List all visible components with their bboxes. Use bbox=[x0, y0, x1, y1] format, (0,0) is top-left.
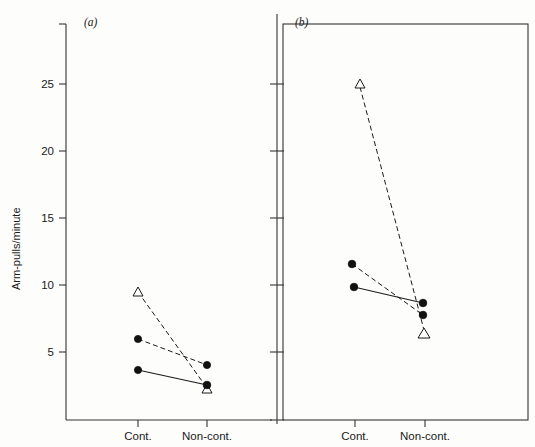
panel-a-marker-circle-noncont-2 bbox=[203, 381, 211, 389]
panel-b-xlabel-noncont: Non-cont. bbox=[400, 430, 450, 442]
panel-a-line-triangle bbox=[138, 292, 207, 388]
panel-b-line-circle-2 bbox=[354, 287, 423, 303]
panel-a-marker-circle-noncont-1 bbox=[203, 361, 210, 368]
panel-a-ytick-label-5: 5 bbox=[48, 346, 54, 358]
panel-a-tag: (a) bbox=[84, 16, 98, 29]
panel-a-marker-triangle-cont bbox=[133, 287, 143, 296]
y-axis-title: Arm-pulls/minute bbox=[10, 207, 22, 290]
panel-a-line-circle-2 bbox=[138, 370, 207, 385]
panel-b: (b) Cont. Non-cont. bbox=[270, 14, 528, 442]
panel-a: 25 20 15 10 5 Arm-pulls/minute (a) Cont.… bbox=[10, 16, 272, 442]
figure-container: 25 20 15 10 5 Arm-pulls/minute (a) Cont.… bbox=[0, 0, 535, 447]
panel-b-frame bbox=[283, 24, 528, 420]
panel-a-marker-circle-cont-1 bbox=[134, 335, 141, 342]
panel-a-line-circle-1 bbox=[138, 339, 207, 365]
panel-a-ytick-label-25: 25 bbox=[41, 78, 54, 90]
panel-b-tag: (b) bbox=[295, 16, 309, 29]
panel-b-marker-triangle-cont bbox=[355, 79, 365, 88]
panel-a-marker-circle-cont-2 bbox=[134, 366, 141, 373]
panel-b-xlabel-cont: Cont. bbox=[341, 430, 369, 442]
panel-b-marker-circle-cont-1 bbox=[348, 260, 356, 268]
panel-b-marker-circle-noncont-2 bbox=[419, 299, 427, 307]
panel-a-ytick-label-15: 15 bbox=[41, 212, 54, 224]
panel-b-marker-circle-noncont-1 bbox=[419, 311, 427, 319]
panel-b-marker-circle-cont-2 bbox=[350, 283, 358, 291]
figure-svg: 25 20 15 10 5 Arm-pulls/minute (a) Cont.… bbox=[0, 0, 535, 447]
panel-a-xlabel-noncont: Non-cont. bbox=[182, 430, 232, 442]
panel-a-ytick-label-10: 10 bbox=[41, 279, 54, 291]
panel-a-ytick-label-20: 20 bbox=[41, 145, 54, 157]
panel-a-xlabel-cont: Cont. bbox=[124, 430, 152, 442]
panel-b-marker-triangle-noncont bbox=[418, 328, 430, 338]
panel-b-line-triangle bbox=[360, 87, 424, 330]
